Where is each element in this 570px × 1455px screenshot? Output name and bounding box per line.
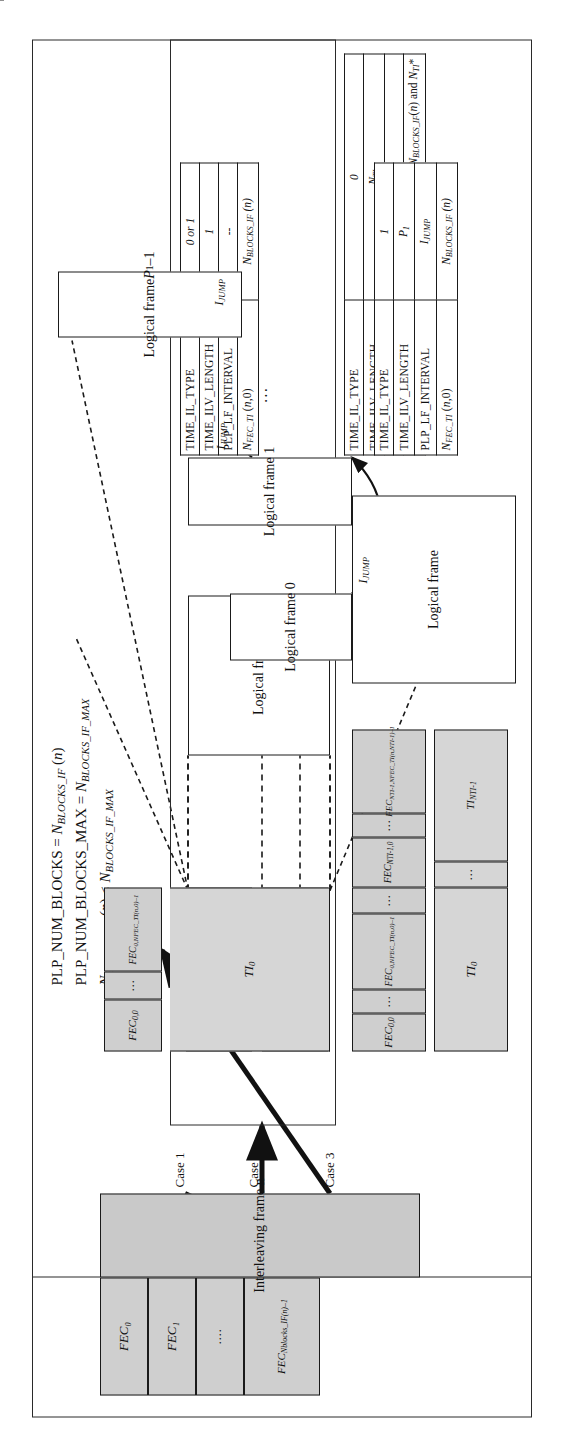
case1-ti-last: TINTI-1 [434,729,508,861]
if-fec-block-0-label: FEC₀ [116,1321,132,1350]
case3-parameter-table: TIME_IL_TYPE 1 TIME_ILV_LENGTH P1 PLP_LF… [374,162,458,455]
case2-label: Case 2 [246,1152,262,1187]
case1-logical-frame: Logical frame [352,495,516,683]
case3-fec-last: FEC0,NFEC_TI(n,0)–1 [104,887,162,971]
case3-jump-label-2: IJUMP [214,422,229,449]
case1-fec-3-label: FECNTI-1,NFEC_TI(n,NTI-1)–1 [384,726,395,817]
case3-jump-label-3: IJUMP [212,278,227,305]
case3-fec-0: FEC0,0 [104,999,162,1051]
figure-stage: PLP_NUM_BLOCKS = NBLOCKS_IF (n) PLP_NUM_… [0,0,570,1455]
if-fec-block-1-label: FEC₁ [164,1321,180,1350]
case3-row0-value: 1 [375,163,394,300]
case3-ti-0-label: TI0 [241,961,257,977]
if-fec-block-1: FEC₁ [148,1277,196,1395]
case3-row1-value: P1 [394,163,415,300]
case1-fec-2-label: FECNTI-1,0 [382,841,395,882]
formula-plp-num-blocks-max: PLP_NUM_BLOCKS_MAX = NBLOCKS_IF_MAX [70,698,94,985]
if-fec-block-last-label: FECNblocks_IF(n)–1 [275,1299,289,1374]
table-row: NFEC_TI (n,0) NBLOCKS_IF (n) [436,163,457,455]
table-row: TIME_ILV_LENGTH P1 [394,163,415,455]
case3-fec-last-label: FEC0,NFEC_TI(n,0)–1 [128,894,139,964]
case1-fec-3: FECNTI-1,NFEC_TI(n,NTI-1)–1 [352,729,426,813]
table-row: PLP_LF_INTERVAL IJUMP [415,163,436,455]
case1-fec-0: FEC0,0 [352,1013,426,1051]
case1-ti-0-label: TI0 [463,961,479,977]
interleaving-frame-bar: Interleaving frame n [100,1193,420,1277]
interleaving-frame-label: Interleaving frame n [252,1178,268,1292]
table-row: TIME_IL_TYPE 0 [345,54,364,455]
case1-fec-2: FECNTI-1,0 [352,837,426,887]
formula-plp-num-blocks: PLP_NUM_BLOCKS = NBLOCKS_IF (n) [46,698,70,985]
case3-logical-frame-1: Logical frame 1 [188,457,352,525]
case1-fec-dots-a: ··· [352,989,426,1013]
case3-row0-name: TIME_IL_TYPE [375,300,394,455]
case3-row2-value: IJUMP [415,163,436,300]
if-fec-block-0: FEC₀ [100,1277,148,1395]
if-fec-block-last: FECNblocks_IF(n)–1 [244,1277,320,1395]
case3-logical-frame-ellipsis: ··· [258,387,276,403]
if-fec-block-ellipsis: ···· [196,1277,244,1395]
case1-row0-value: 0 [345,54,364,300]
case3-fec-dots: ··· [104,971,162,999]
case1-fec-1: FEC0,NFEC_TI(n,0)–1 [352,913,426,989]
case1-ti-last-label: TINTI-1 [464,781,478,810]
case3-row1-name: TIME_ILV_LENGTH [394,300,415,455]
case3-ti-0: TI0 [170,887,330,1051]
case3-logical-frame-0: Logical frame 0 [230,593,352,660]
case3-row2-name: PLP_LF_INTERVAL [415,300,436,455]
case1-fec-0-label: FEC0,0 [382,1017,396,1048]
case1-fec-dots-b: ··· [352,887,426,913]
case1-ti-dots: ··· [434,861,508,887]
case1-row0-name: TIME_IL_TYPE [345,300,364,455]
case3-row3-value: NBLOCKS_IF (n) [436,163,457,300]
case1-label: Case 1 [172,1152,188,1187]
case1-ti-0: TI0 [434,887,508,1051]
case3-label: Case 3 [322,1152,338,1187]
case3-jump-label-1: IJUMP [356,556,371,583]
case3-fec-0-label: FEC0,0 [126,1010,140,1041]
if-fec-ellipsis-label: ···· [213,1328,228,1344]
case3-row3-name: NFEC_TI (n,0) [436,300,457,455]
table-row: TIME_IL_TYPE 1 [375,163,394,455]
case1-fec-1-label: FEC0,NFEC_TI(n,0)–1 [384,916,395,986]
